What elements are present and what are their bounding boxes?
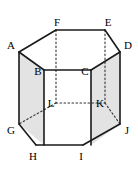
vertex-label-e: E: [105, 17, 112, 28]
vertex-label-k: K: [96, 98, 104, 109]
vertex-label-l: L: [48, 98, 55, 109]
hexagonal-prism-svg: [0, 0, 138, 171]
vertex-label-j: J: [125, 125, 129, 136]
vertex-label-h: H: [29, 151, 37, 162]
vertex-label-g: G: [7, 125, 15, 136]
vertex-label-i: I: [79, 151, 83, 162]
vertex-label-a: A: [7, 40, 15, 51]
vertex-label-d: D: [124, 40, 132, 51]
vertex-label-b: B: [34, 66, 41, 77]
vertex-label-c: C: [81, 66, 88, 77]
geometry-figure-canvas: ABCDEFGHIJKL: [0, 0, 138, 171]
vertex-label-f: F: [54, 17, 60, 28]
